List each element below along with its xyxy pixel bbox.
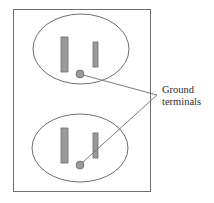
- label-terminals: terminals: [162, 96, 201, 107]
- outlet-diagram: Ground terminals: [0, 0, 214, 203]
- upper-hot-slot: [93, 42, 98, 67]
- lower-neutral-slot: [61, 128, 68, 163]
- upper-ground-terminal-icon: [76, 70, 84, 78]
- upper-neutral-slot: [61, 37, 68, 72]
- label-ground: Ground: [162, 84, 195, 95]
- lower-hot-slot: [93, 133, 98, 158]
